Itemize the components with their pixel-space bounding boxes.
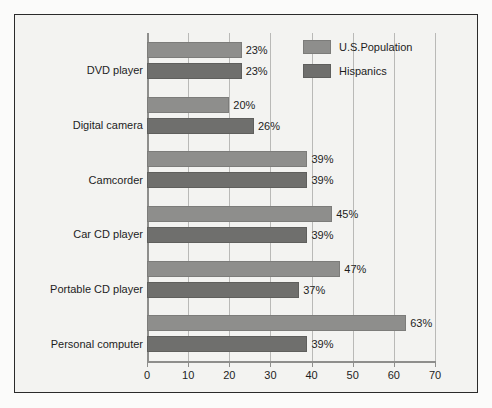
x-tick-40 <box>312 361 313 367</box>
chart-legend: U.S.Population Hispanics <box>303 39 453 87</box>
bar-row: 37% <box>147 282 435 298</box>
x-tick-label-10: 10 <box>182 369 194 381</box>
bar-value-label: 45% <box>332 208 358 220</box>
bar-value-label: 63% <box>406 317 432 329</box>
bar-personal-computer-hispanics <box>147 336 307 352</box>
category-label-car-cd-player: Car CD player <box>19 228 143 240</box>
x-tick-60 <box>394 361 395 367</box>
bar-row: 45% <box>147 206 435 222</box>
bar-digital-camera-hispanics <box>147 118 254 134</box>
x-tick-label-20: 20 <box>223 369 235 381</box>
bar-dvd-player-u-s-population <box>147 42 242 58</box>
bar-value-label: 23% <box>242 44 268 56</box>
category-label-digital-camera: Digital camera <box>19 119 143 131</box>
category-label-dvd-player: DVD player <box>19 64 143 76</box>
bar-value-label: 23% <box>242 65 268 77</box>
bar-value-label: 20% <box>229 99 255 111</box>
bar-portable-cd-player-hispanics <box>147 282 299 298</box>
chart-frame: DVD playerDigital cameraCamcorderCar CD … <box>14 14 478 393</box>
x-tick-label-50: 50 <box>347 369 359 381</box>
bar-row: 39% <box>147 336 435 352</box>
bar-camcorder-hispanics <box>147 172 307 188</box>
category-label-camcorder: Camcorder <box>19 174 143 186</box>
x-tick-30 <box>270 361 271 367</box>
x-tick-0 <box>147 361 148 367</box>
x-tick-10 <box>188 361 189 367</box>
bar-row: 39% <box>147 151 435 167</box>
bar-camcorder-u-s-population <box>147 151 307 167</box>
x-tick-20 <box>229 361 230 367</box>
bar-row: 63% <box>147 315 435 331</box>
bar-value-label: 47% <box>340 263 366 275</box>
bar-portable-cd-player-u-s-population <box>147 261 340 277</box>
legend-swatch-us-population <box>303 40 331 54</box>
bar-value-label: 39% <box>307 174 333 186</box>
gridline-0 <box>147 33 149 361</box>
bar-value-label: 26% <box>254 120 280 132</box>
bar-value-label: 39% <box>307 229 333 241</box>
bar-car-cd-player-u-s-population <box>147 206 332 222</box>
bar-row: 20% <box>147 97 435 113</box>
x-tick-label-70: 70 <box>429 369 441 381</box>
bar-dvd-player-hispanics <box>147 63 242 79</box>
x-tick-70 <box>435 361 436 367</box>
legend-label-hispanics: Hispanics <box>339 65 387 77</box>
category-axis-labels: DVD playerDigital cameraCamcorderCar CD … <box>15 33 143 361</box>
bar-value-label: 37% <box>299 284 325 296</box>
category-label-personal-computer: Personal computer <box>19 338 143 350</box>
bar-car-cd-player-hispanics <box>147 227 307 243</box>
chart-page: DVD playerDigital cameraCamcorderCar CD … <box>0 0 492 408</box>
category-label-portable-cd-player: Portable CD player <box>19 283 143 295</box>
bar-value-label: 39% <box>307 153 333 165</box>
bar-value-label: 39% <box>307 338 333 350</box>
x-tick-50 <box>353 361 354 367</box>
legend-entry-us-population: U.S.Population <box>303 39 453 55</box>
bar-row: 39% <box>147 172 435 188</box>
legend-label-us-population: U.S.Population <box>339 41 412 53</box>
bar-row: 39% <box>147 227 435 243</box>
gridline-20 <box>229 33 230 361</box>
gridline-30 <box>270 33 271 361</box>
bar-row: 47% <box>147 261 435 277</box>
x-tick-label-60: 60 <box>388 369 400 381</box>
bar-personal-computer-u-s-population <box>147 315 406 331</box>
x-tick-label-30: 30 <box>264 369 276 381</box>
legend-swatch-hispanics <box>303 64 331 78</box>
legend-entry-hispanics: Hispanics <box>303 63 453 79</box>
x-tick-label-40: 40 <box>305 369 317 381</box>
x-tick-label-0: 0 <box>144 369 150 381</box>
gridline-10 <box>188 33 189 361</box>
bar-digital-camera-u-s-population <box>147 97 229 113</box>
x-axis-line <box>147 361 436 363</box>
bar-row: 26% <box>147 118 435 134</box>
